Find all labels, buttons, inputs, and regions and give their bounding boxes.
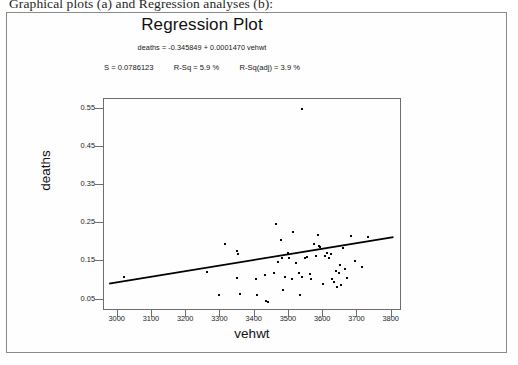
- data-point: [354, 260, 356, 262]
- data-point: [344, 268, 346, 270]
- data-point: [284, 276, 286, 278]
- data-point: [280, 239, 282, 241]
- x-tick-label: 3100: [134, 315, 168, 322]
- data-point: [331, 278, 333, 280]
- data-point: [255, 278, 257, 280]
- x-tick-label: 3500: [271, 315, 305, 322]
- x-tick-label: 3300: [202, 315, 236, 322]
- data-point: [319, 246, 321, 248]
- data-point: [346, 277, 348, 279]
- data-point: [236, 277, 238, 279]
- data-point: [123, 276, 125, 278]
- data-point: [291, 278, 293, 280]
- data-point: [287, 252, 289, 254]
- data-point: [361, 266, 363, 268]
- regression-fit-line: [104, 99, 402, 311]
- x-tick-label: 3000: [100, 315, 134, 322]
- data-point: [322, 283, 324, 285]
- data-point: [301, 276, 303, 278]
- x-tick-label: 3400: [237, 315, 271, 322]
- data-point: [292, 231, 294, 233]
- data-point: [281, 257, 283, 259]
- data-point: [367, 236, 369, 238]
- data-point: [237, 253, 239, 255]
- data-point: [282, 289, 284, 291]
- x-tick-label: 3700: [339, 315, 373, 322]
- data-point: [310, 278, 312, 280]
- data-point: [298, 272, 300, 274]
- data-point: [350, 235, 352, 237]
- data-point: [239, 293, 241, 295]
- data-point: [288, 257, 290, 259]
- data-point: [317, 234, 319, 236]
- data-point: [206, 271, 208, 273]
- data-point: [267, 301, 269, 303]
- x-tick-label: 3600: [305, 315, 339, 322]
- data-point: [338, 272, 340, 274]
- data-point: [275, 223, 277, 225]
- data-point: [218, 294, 220, 296]
- figure-frame: Regression Plot deaths = -0.345849 + 0.0…: [6, 12, 507, 353]
- data-point: [336, 286, 338, 288]
- data-point: [315, 255, 317, 257]
- data-point: [277, 261, 279, 263]
- data-point: [309, 273, 311, 275]
- data-point: [324, 255, 326, 257]
- data-point: [342, 247, 344, 249]
- data-point: [306, 256, 308, 258]
- x-tick-label: 3800: [374, 315, 408, 322]
- data-point: [273, 272, 275, 274]
- figure-caption: Graphical plots (a) and Regression analy…: [9, 0, 273, 12]
- data-point: [256, 294, 258, 296]
- data-point: [301, 108, 303, 110]
- data-point: [313, 243, 315, 245]
- y-axis-title: deaths: [38, 131, 53, 211]
- data-point: [328, 257, 330, 259]
- data-point: [333, 281, 335, 283]
- plot-area: [103, 98, 401, 310]
- data-point: [330, 253, 332, 255]
- data-point: [236, 250, 238, 252]
- data-point: [295, 262, 297, 264]
- data-point: [224, 243, 226, 245]
- data-point: [326, 252, 328, 254]
- data-point: [264, 274, 266, 276]
- data-point: [339, 264, 341, 266]
- data-point: [299, 294, 301, 296]
- data-point: [340, 284, 342, 286]
- x-axis-title: vehwt: [103, 326, 401, 341]
- x-tick-label: 3200: [168, 315, 202, 322]
